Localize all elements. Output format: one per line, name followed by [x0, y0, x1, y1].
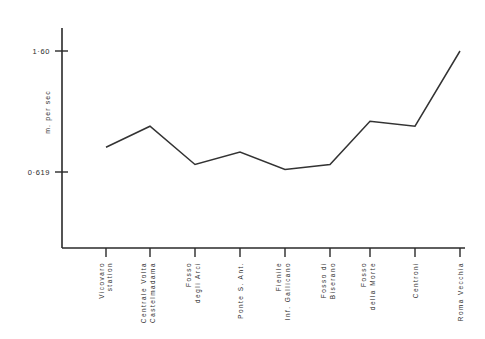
- x-label-centroni: Centroni: [412, 262, 419, 298]
- x-label-centrale-volta-line2: Castelmadama: [149, 262, 156, 323]
- x-label-fosso-di-biserano: Fosso di: [320, 262, 327, 298]
- x-label-fosso-della-morte-line2: della Morte: [369, 262, 376, 310]
- x-label-fienile-line2: Inf. Gallicano: [284, 262, 291, 320]
- x-label-fosso-di-biserano-line2: Biserano: [329, 262, 336, 299]
- y-tick-label-upper: 1·60: [33, 47, 50, 56]
- x-label-roma-vecchia: Roma Vecchia: [457, 262, 464, 321]
- y-tick-label-lower: 0·619: [28, 168, 50, 177]
- x-label-fosso-della-morte: Fosso: [360, 262, 367, 287]
- x-label-centrale-volta: Centrale Volta: [140, 262, 147, 323]
- x-label-fienile: Fienile: [275, 262, 282, 291]
- y-axis-title: m. per sec: [44, 90, 52, 134]
- x-label-vicovaro-station: Vicovaro: [98, 262, 105, 299]
- chart-canvas: 1·60 0·619 m. per sec Vicovaro station C…: [0, 0, 485, 339]
- line-chart: 1·60 0·619 m. per sec Vicovaro station C…: [0, 0, 485, 339]
- x-label-ponte-s-ant: Ponte S. Ant.: [237, 262, 244, 319]
- x-label-fosso-degli-arci: Fosso: [185, 262, 192, 287]
- x-label-vicovaro-station-line2: station: [106, 262, 113, 291]
- x-label-fosso-degli-arci-line2: degli Arci: [194, 262, 202, 303]
